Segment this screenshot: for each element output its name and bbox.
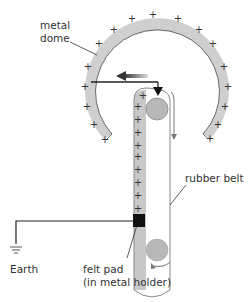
earth-symbol-icon — [10, 247, 22, 253]
metal-dome — [85, 18, 229, 139]
svg-text:+: + — [174, 13, 182, 24]
svg-text:+: + — [95, 38, 103, 49]
svg-text:+: + — [84, 61, 92, 72]
svg-text:+: + — [134, 101, 142, 112]
svg-text:+: + — [110, 24, 118, 35]
svg-text:+: + — [134, 151, 142, 162]
svg-text:+: + — [149, 9, 157, 20]
rubber-belt-label: rubber belt — [185, 172, 244, 185]
metal-dome-label-line1: metal — [40, 19, 70, 32]
felt-pad-label: felt pad (in metal holder) — [83, 263, 171, 289]
svg-text:+: + — [134, 140, 142, 151]
svg-text:+: + — [209, 38, 217, 49]
comb-arrow-icon — [153, 87, 163, 96]
earth-label: Earth — [10, 263, 38, 276]
svg-text:+: + — [134, 164, 142, 175]
svg-text:+: + — [224, 81, 232, 92]
svg-text:+: + — [134, 190, 142, 201]
svg-text:+: + — [90, 119, 98, 130]
charge-flow-arrow-icon — [116, 71, 126, 81]
felt-pad — [133, 214, 145, 227]
svg-text:+: + — [195, 24, 203, 35]
felt-pad-label-line2: (in metal holder) — [83, 276, 171, 289]
svg-text:+: + — [220, 61, 228, 72]
svg-text:+: + — [214, 119, 222, 130]
metal-dome-label-line2: dome — [40, 32, 70, 45]
svg-text:+: + — [139, 90, 147, 101]
felt-pad-label-line1: felt pad — [83, 263, 171, 276]
svg-text:+: + — [206, 133, 214, 144]
svg-text:+: + — [128, 13, 136, 24]
svg-text:+: + — [101, 134, 109, 145]
bottom-pulley — [146, 239, 168, 261]
svg-text:+: + — [134, 203, 142, 214]
van-de-graaff-diagram: +++ ++ ++ ++ ++ ++ ++ ++ +++ +++ +++ + — [0, 0, 248, 302]
svg-text:+: + — [221, 101, 229, 112]
svg-text:+: + — [134, 127, 142, 138]
svg-text:+: + — [134, 177, 142, 188]
svg-text:+: + — [83, 101, 91, 112]
svg-text:+: + — [81, 81, 89, 92]
svg-text:+: + — [134, 114, 142, 125]
top-pulley — [146, 98, 168, 120]
metal-dome-label: metal dome — [40, 19, 70, 45]
